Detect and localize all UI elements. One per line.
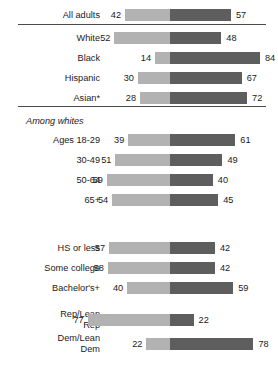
value-label-left: 59: [63, 170, 103, 190]
value-label-left: 39: [84, 130, 124, 150]
value-label-left: 77: [44, 310, 84, 330]
value-label-right: 78: [258, 334, 278, 354]
chart-row: HS or less5742: [0, 238, 278, 258]
bar-segment-left: [107, 174, 170, 186]
bar-segment-right: [170, 72, 242, 84]
bar-segment-left: [115, 154, 170, 166]
value-label-left: 42: [81, 5, 121, 25]
value-label-left: 30: [94, 68, 134, 88]
bar-segment-right: [170, 154, 222, 166]
value-label-right: 40: [218, 170, 258, 190]
bar-segment-right: [170, 314, 194, 326]
chart-row: Bachelor's+4059: [0, 278, 278, 298]
chart-row: Asian*2872: [0, 88, 278, 108]
chart-row: Black1484: [0, 48, 278, 68]
chart-row: White5248: [0, 28, 278, 48]
section-heading: Among whites: [26, 114, 84, 128]
bar-segment-right: [170, 338, 253, 350]
bar-segment-right: [170, 134, 235, 146]
chart-row: Rep/Lean Rep7722: [0, 310, 278, 330]
value-label-left: 28: [96, 88, 136, 108]
bar-segment-right: [170, 282, 233, 294]
bar-segment-left: [88, 314, 170, 326]
chart-row: Dem/Lean Dem2278: [0, 334, 278, 354]
value-label-right: 42: [220, 258, 260, 278]
chart-row: 65+5445: [0, 190, 278, 210]
chart-row: Some college5842: [0, 258, 278, 278]
value-label-left: 57: [65, 238, 105, 258]
bar-segment-right: [170, 32, 221, 44]
value-label-left: 54: [68, 190, 108, 210]
bar-group: [0, 72, 278, 84]
bar-group: [0, 134, 278, 146]
value-label-right: 61: [240, 130, 278, 150]
value-label-right: 45: [223, 190, 263, 210]
value-label-right: 22: [199, 310, 239, 330]
bar-segment-right: [170, 242, 215, 254]
value-label-left: 40: [83, 278, 123, 298]
value-label-right: 59: [238, 278, 278, 298]
bar-group: [0, 92, 278, 104]
bar-group: [0, 282, 278, 294]
value-label-left: 58: [64, 258, 104, 278]
value-label-right: 67: [247, 68, 278, 88]
value-label-right: 72: [252, 88, 278, 108]
bar-segment-left: [114, 32, 170, 44]
bar-segment-right: [170, 174, 213, 186]
bar-segment-left: [108, 262, 170, 274]
chart-row: 30-495149: [0, 150, 278, 170]
value-label-left: 22: [102, 334, 142, 354]
bar-segment-right: [170, 52, 260, 64]
value-label-right: 49: [227, 150, 267, 170]
chart-row: All adults4257: [0, 5, 278, 25]
bar-segment-left: [138, 72, 170, 84]
bar-segment-left: [146, 338, 170, 350]
bar-segment-left: [140, 92, 170, 104]
value-label-right: 48: [226, 28, 266, 48]
diverging-bar-chart: Among whitesAll adults4257White5248Black…: [0, 0, 278, 370]
bar-segment-right: [170, 262, 215, 274]
bar-segment-left: [128, 134, 170, 146]
chart-row: Ages 18-293961: [0, 130, 278, 150]
value-label-right: 57: [236, 5, 276, 25]
bar-segment-left: [109, 242, 170, 254]
value-label-left: 14: [111, 48, 151, 68]
bar-segment-left: [127, 282, 170, 294]
bar-segment-right: [170, 194, 218, 206]
chart-row: Hispanic3067: [0, 68, 278, 88]
bar-segment-right: [170, 9, 231, 21]
chart-row: 50-645940: [0, 170, 278, 190]
bar-segment-right: [170, 92, 247, 104]
bar-segment-left: [112, 194, 170, 206]
value-label-right: 42: [220, 238, 260, 258]
bar-segment-left: [155, 52, 170, 64]
bar-segment-left: [125, 9, 170, 21]
value-label-left: 52: [70, 28, 110, 48]
value-label-right: 84: [265, 48, 278, 68]
value-label-left: 51: [71, 150, 111, 170]
